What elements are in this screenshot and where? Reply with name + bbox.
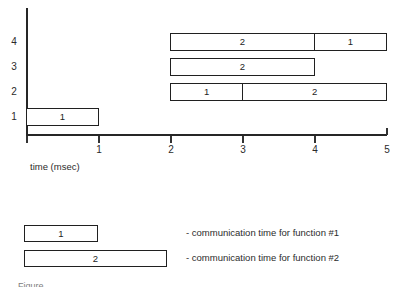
gantt-segment: 1 — [314, 34, 386, 50]
y-tick-label-1: 1 — [8, 111, 20, 123]
legend-text-function-2: - communication time for function #2 — [186, 252, 339, 264]
x-tick-0 — [26, 136, 28, 143]
gantt-segment: 1 — [27, 109, 98, 125]
y-tick-label-2: 2 — [8, 86, 20, 98]
gantt-bar-row-3: 2 — [170, 58, 315, 76]
x-tick-1 — [98, 136, 100, 143]
x-tick-2 — [170, 136, 172, 143]
legend-swatch-function-2: 2 — [24, 250, 167, 267]
y-tick-label-3: 3 — [8, 61, 20, 73]
x-axis-title: time (msec) — [30, 161, 80, 173]
y-tick-label-4: 4 — [8, 36, 20, 48]
figure-caption-partial: Figure ... — [18, 281, 188, 287]
chart-legend: 1 2 - communication time for function #1… — [0, 185, 405, 287]
gantt-bar-row-4: 2 1 — [170, 33, 387, 51]
gantt-bar-row-2: 1 2 — [170, 83, 387, 101]
x-tick-3 — [242, 136, 244, 143]
legend-swatch-function-1: 1 — [24, 225, 98, 242]
gantt-segment: 2 — [171, 34, 314, 50]
x-tick-label-2: 2 — [161, 144, 181, 156]
gantt-chart: 1 2 3 4 5 4 3 2 1 2 1 2 1 2 1 time (msec… — [0, 0, 405, 180]
legend-text-function-1: - communication time for function #1 — [186, 227, 339, 239]
gantt-segment: 2 — [171, 59, 314, 75]
x-axis-line — [26, 134, 387, 136]
x-tick-label-1: 1 — [89, 144, 109, 156]
x-tick-label-5: 5 — [377, 144, 397, 156]
gantt-segment: 1 — [171, 84, 242, 100]
gantt-bar-row-1: 1 — [26, 108, 99, 126]
x-tick-5 — [386, 128, 388, 135]
x-tick-label-3: 3 — [233, 144, 253, 156]
x-tick-label-4: 4 — [305, 144, 325, 156]
x-tick-4 — [314, 136, 316, 143]
timing-diagram-figure: 1 2 3 4 5 4 3 2 1 2 1 2 1 2 1 time (msec… — [0, 0, 405, 287]
gantt-segment: 2 — [242, 84, 386, 100]
